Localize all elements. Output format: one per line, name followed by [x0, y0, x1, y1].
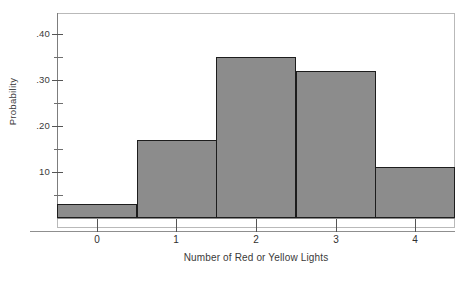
x-axis-tick — [97, 219, 98, 232]
y-axis-tick-label: .30 — [12, 74, 50, 86]
x-axis-rule — [30, 231, 455, 232]
y-axis-tick-label-text: .30 — [16, 74, 50, 85]
probability-histogram-figure: .40.30.2010 Probability 01234 Number of … — [0, 0, 466, 285]
y-axis-tick — [54, 57, 63, 58]
y-axis-spine — [57, 13, 58, 219]
y-axis-tick-label: .40 — [12, 28, 50, 40]
y-axis-tick — [52, 80, 63, 81]
y-axis-title: Probability — [7, 62, 18, 142]
y-axis-tick — [52, 126, 63, 127]
y-axis-tick-label-text: 10 — [16, 166, 50, 177]
x-axis-tick-label: 2 — [244, 234, 268, 245]
y-axis-tick — [54, 149, 63, 150]
y-axis-tick-label: .20 — [12, 120, 50, 132]
x-axis-tick — [256, 219, 257, 232]
y-axis-tick-label-text: .40 — [16, 28, 50, 39]
y-axis-tick — [52, 34, 63, 35]
histogram-bar[interactable] — [57, 204, 137, 218]
x-axis-tick-label: 1 — [164, 234, 188, 245]
x-axis-title: Number of Red or Yellow Lights — [57, 252, 455, 263]
x-axis-tick — [415, 219, 416, 232]
x-axis-tick-label: 0 — [85, 234, 109, 245]
x-axis-tick — [176, 219, 177, 232]
histogram-bar[interactable] — [137, 140, 217, 218]
y-axis-tick-label-text: .20 — [16, 120, 50, 131]
y-axis-tick — [52, 172, 63, 173]
histogram-bar[interactable] — [375, 167, 455, 218]
y-axis-tick — [54, 103, 63, 104]
x-axis-tick-label: 4 — [403, 234, 427, 245]
y-axis-tick — [54, 195, 63, 196]
x-axis-tick — [336, 219, 337, 232]
histogram-bar[interactable] — [216, 57, 296, 218]
y-axis-tick-label: 10 — [12, 166, 50, 178]
x-axis-tick-label: 3 — [324, 234, 348, 245]
histogram-bar[interactable] — [296, 71, 376, 218]
